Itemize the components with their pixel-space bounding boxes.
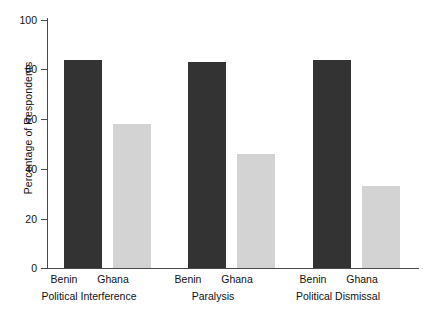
bar-paralysis-ghana xyxy=(237,154,275,268)
bar-political-interference-benin xyxy=(64,60,102,268)
plot-area xyxy=(47,20,419,268)
y-tick-label-20: 20 xyxy=(0,214,37,224)
x-axis-line xyxy=(47,268,419,269)
bar-political-dismissal-ghana xyxy=(362,186,400,268)
x-label-group1-benin: Benin xyxy=(39,274,89,285)
bar-chart: Percentage of Respondents 0 20 40 60 80 … xyxy=(0,0,427,315)
x-label-group2-ghana: Ghana xyxy=(212,274,262,285)
y-tick-label-40: 40 xyxy=(0,164,37,174)
x-group-label-political-interference: Political Interference xyxy=(18,291,160,302)
y-tick-label-0: 0 xyxy=(0,263,37,273)
x-label-group3-benin: Benin xyxy=(288,274,338,285)
x-group-label-paralysis: Paralysis xyxy=(142,291,284,302)
x-label-group2-benin: Benin xyxy=(163,274,213,285)
y-tick-label-60: 60 xyxy=(0,114,37,124)
y-axis-title: Percentage of Respondents xyxy=(22,28,34,228)
x-group-label-political-dismissal: Political Dismissal xyxy=(267,291,409,302)
x-label-group3-ghana: Ghana xyxy=(337,274,387,285)
y-tick-label-80: 80 xyxy=(0,64,37,74)
y-tick-0 xyxy=(41,268,47,269)
y-tick-label-100: 100 xyxy=(0,15,37,25)
x-label-group1-ghana: Ghana xyxy=(88,274,138,285)
bar-political-interference-ghana xyxy=(113,124,151,268)
bar-paralysis-benin xyxy=(188,62,226,268)
bar-political-dismissal-benin xyxy=(313,60,351,268)
